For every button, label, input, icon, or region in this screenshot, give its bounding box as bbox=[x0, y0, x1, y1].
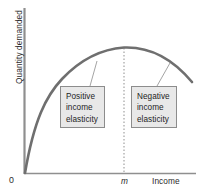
income-elasticity-chart: Quantity demanded Income 0 m Positive in… bbox=[0, 0, 204, 196]
origin-label: 0 bbox=[9, 175, 14, 185]
x-axis-label: Income bbox=[152, 176, 180, 186]
annotation-positive-income-elasticity: Positive income elasticity bbox=[60, 86, 105, 128]
x-tick-label-m: m bbox=[121, 176, 128, 186]
annotation-line: Negative bbox=[137, 91, 176, 102]
leader-line-negative bbox=[157, 63, 170, 86]
annotation-line: income bbox=[66, 102, 104, 113]
leader-line-positive bbox=[90, 61, 97, 86]
annotation-line: elasticity bbox=[66, 114, 104, 125]
annotation-negative-income-elasticity: Negative income elasticity bbox=[131, 86, 177, 128]
annotation-line: income bbox=[137, 102, 176, 113]
annotation-line: elasticity bbox=[137, 114, 176, 125]
y-axis-label: Quantity demanded bbox=[14, 0, 24, 107]
annotation-line: Positive bbox=[66, 91, 104, 102]
